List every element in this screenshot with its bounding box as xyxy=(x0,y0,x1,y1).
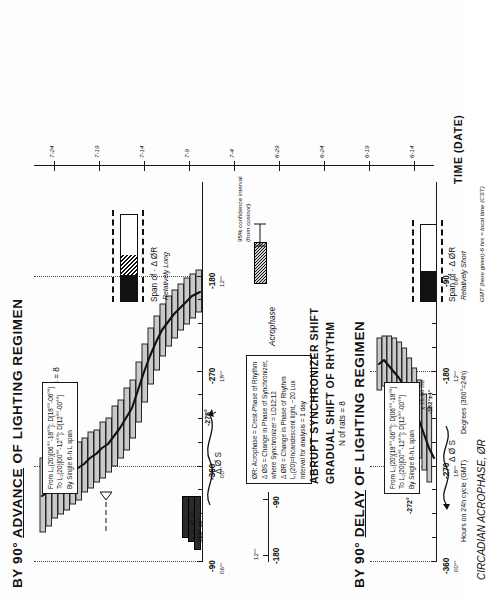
advance-minor-tick xyxy=(198,299,202,300)
advance-minor-tick xyxy=(198,513,202,514)
time-axis: 7-24 7-19 7-14 7-9 7-4 6-29 6-24 6-19 6-… xyxy=(34,152,434,172)
advance-tick-270 xyxy=(197,371,202,372)
delay-minor-tick xyxy=(432,442,436,443)
advance-minor-tick xyxy=(198,394,202,395)
time-tick xyxy=(189,161,190,171)
date-label-4: 7-4 xyxy=(228,149,235,158)
delay-span-dash-top xyxy=(412,220,414,302)
advance-title-suffix: OF LIGHTING REGIMEN xyxy=(10,298,25,468)
advance-plot-area: N of rats = 8 xyxy=(34,182,202,562)
delay-minor-tick xyxy=(432,347,436,348)
date-label-2: 6-24 xyxy=(318,146,325,158)
heading-abrupt-shift: ABRUPT SYNCHRONIZER SHIFT xyxy=(308,308,320,484)
advance-axis-line xyxy=(202,182,203,562)
definitions-box: ØR: Acrophase = Crest-Phase of Rhythm Δ … xyxy=(246,355,312,484)
delay-tick-90 xyxy=(431,276,436,277)
delay-mean-value: -182°±4° xyxy=(426,390,433,414)
advance-span-sub: Relatively Long xyxy=(162,252,169,300)
acrophase-ci-label: 95% confidence interval (from cosinor) xyxy=(236,172,252,242)
panel-title-advance: BY 90° ADVANCE OF LIGHTING REGIMEN xyxy=(10,298,25,588)
advance-mean-label: χ ±1.96 SE xyxy=(188,510,195,540)
delay-minor-tick xyxy=(432,323,436,324)
center-mini-axis: -180 12°° -90 xyxy=(248,492,288,562)
advance-title-keyword: ADVANCE xyxy=(10,468,25,538)
advance-delta-phi-s-bracket xyxy=(206,287,228,507)
date-label-0: 6-14 xyxy=(408,146,415,158)
date-label-3: 6-29 xyxy=(273,146,280,158)
advance-minor-tick xyxy=(198,323,202,324)
time-tick xyxy=(369,161,370,171)
date-label-8: 7-24 xyxy=(48,146,55,158)
advance-minor-tick xyxy=(198,418,202,419)
advance-tick-90 xyxy=(197,561,202,562)
legend-line-1: ØR: Acrophase = Crest-Phase of Rhythm xyxy=(250,360,260,479)
delay-title-prefix: BY 90° xyxy=(352,537,367,588)
date-label-7: 7-19 xyxy=(93,146,100,158)
delay-minor-tick xyxy=(432,418,436,419)
delay-minor-tick xyxy=(432,299,436,300)
advance-mean-value: -368° ±6° xyxy=(196,518,203,544)
advance-hr-06: 06°° xyxy=(218,562,225,574)
delay-start-value: -272° xyxy=(406,497,413,514)
advance-minor-tick xyxy=(198,442,202,443)
advance-hr-12: 12°° xyxy=(218,275,225,287)
delay-deg-360: -360 xyxy=(442,558,451,574)
advance-tick-180 xyxy=(197,276,202,277)
advance-span-label: Span of · Δ ØR xyxy=(150,247,159,302)
delay-regimen-line-1: From L₁(20)[18°°-06°°]: D[06°°-18°°] xyxy=(388,387,397,489)
advance-minor-tick xyxy=(198,489,202,490)
advance-span-dash-bottom xyxy=(142,210,144,302)
time-axis-title: TIME (DATE) xyxy=(452,115,464,184)
delay-span-bar xyxy=(420,224,437,302)
advance-regimen-line-2: To L₁(20)[00°°-12°°]: D[12°°-00°°] xyxy=(55,387,64,489)
acrophase-ci-leader xyxy=(248,180,274,250)
advance-box-leader xyxy=(96,442,126,502)
delay-tick-360 xyxy=(431,561,436,562)
delay-minor-tick xyxy=(432,537,436,538)
date-label-6: 7-14 xyxy=(138,146,145,158)
center-tick-180 xyxy=(263,555,268,556)
y-axis-title: CIRCADIAN ACROPHASE, ØR xyxy=(476,439,487,580)
delay-delta-phi-s-label: Δ Ø S xyxy=(448,440,457,462)
legend-line-6: Interval for analysis = 1 day xyxy=(298,360,308,479)
date-label-1: 6-19 xyxy=(363,146,370,158)
delay-n-label: N of rats = 8 xyxy=(338,401,347,446)
acrophase-marker-label: Acrophase xyxy=(268,307,277,346)
panel-title-delay: BY 90° DELAY OF LIGHTING REGIMEN xyxy=(352,321,367,588)
time-tick xyxy=(234,161,235,171)
center-axis-line xyxy=(268,492,269,562)
time-tick xyxy=(324,161,325,171)
time-tick xyxy=(279,161,280,171)
center-label-180: -180 xyxy=(272,548,281,564)
delay-hr-06: 06°° xyxy=(452,273,459,285)
delay-tick-270 xyxy=(431,466,436,467)
advance-delta-phi-s-value: -278° xyxy=(204,409,211,426)
date-label-5: 7-9 xyxy=(183,149,190,158)
delay-regimen-line-2: To L₁(20)[00°°-12°°]: D[12°°-00°°] xyxy=(397,387,406,489)
time-tick xyxy=(54,161,55,171)
delay-deg-90: -90 xyxy=(442,275,451,287)
delay-mean-label: χ ±1.96 SE xyxy=(418,380,425,410)
delay-hr-00: 00°° xyxy=(452,560,459,572)
advance-delta-phi-s-label: Δ Ø S xyxy=(214,452,223,474)
time-axis-note: GMT (here given)-6 hrs = local time (CST… xyxy=(478,186,485,302)
advance-title-prefix: BY 90° xyxy=(10,538,25,588)
legend-line-5: L₁(20)=Incandescent light, ~20 Lux xyxy=(288,360,298,479)
delay-title-keyword: DELAY xyxy=(352,490,367,537)
time-tick xyxy=(414,161,415,171)
delay-minor-tick xyxy=(432,513,436,514)
legend-line-4: Δ ØR = Change in Phase of Rhythm xyxy=(279,360,289,479)
advance-minor-tick xyxy=(198,347,202,348)
legend-line-3: where Synchronizer = LD12:12 xyxy=(269,360,279,479)
advance-span-bar xyxy=(120,214,138,302)
y-axis-sub-degrees: Degrees (360°=24h) xyxy=(460,371,467,434)
legend-line-2: Δ ØS = Change in Phase of Synchronizer, xyxy=(260,360,270,479)
heading-gradual-shift: GRADUAL SHIFT OF RHYTHM xyxy=(324,322,336,484)
advance-deg-90: -90 xyxy=(208,560,217,572)
center-label-90: -90 xyxy=(272,496,281,508)
advance-span-dash-top xyxy=(112,210,114,302)
center-label-1200: 12°° xyxy=(252,548,259,560)
advance-regimen-line-1: From L₁(20)[06°°-18°°]: D[18°°-06°°] xyxy=(46,387,55,489)
delay-tick-180 xyxy=(431,371,436,372)
